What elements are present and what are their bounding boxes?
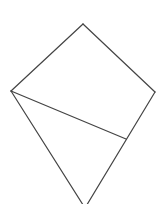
- diagonal: [11, 91, 126, 139]
- right-lower-edge: [85, 92, 155, 204]
- left-lower-edge: [11, 91, 85, 204]
- top-left-edge: [11, 24, 83, 91]
- geometry-diagram: [0, 0, 167, 204]
- top-right-edge: [83, 24, 155, 92]
